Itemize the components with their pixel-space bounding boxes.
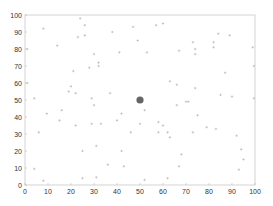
x-tick-label: 0: [23, 188, 27, 195]
x-tick-label: 40: [113, 188, 121, 195]
x-tick-label: 90: [228, 188, 236, 195]
y-tick-label: 50: [14, 97, 22, 104]
y-tick-label: 30: [14, 131, 22, 138]
x-tick-label: 20: [67, 188, 75, 195]
y-tick-label: 10: [14, 165, 22, 172]
y-tick-label: 100: [10, 12, 22, 19]
y-tick-label: 90: [14, 29, 22, 36]
x-tick-label: 30: [90, 188, 98, 195]
x-tick-label: 10: [44, 188, 52, 195]
scatter-chart: 0102030405060708090100 01020304050607080…: [0, 0, 273, 206]
x-tick-label: 50: [136, 188, 144, 195]
x-tick-label: 80: [205, 188, 213, 195]
y-tick-label: 80: [14, 46, 22, 53]
highlight-point: [136, 96, 143, 103]
y-tick-label: 0: [18, 182, 22, 189]
x-tick-label: 100: [249, 188, 261, 195]
x-tick-label: 70: [182, 188, 190, 195]
x-tick-label: 60: [159, 188, 167, 195]
y-tick-label: 70: [14, 63, 22, 70]
y-tick-label: 20: [14, 148, 22, 155]
y-axis: 0102030405060708090100: [10, 12, 27, 189]
y-tick-label: 60: [14, 80, 22, 87]
y-tick-label: 40: [14, 114, 22, 121]
